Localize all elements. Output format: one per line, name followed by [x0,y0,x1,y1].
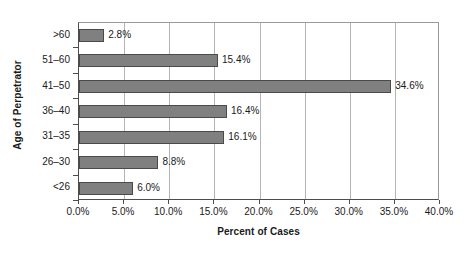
bar [79,105,227,118]
x-axis-tick [304,200,305,204]
x-axis-tick [213,200,214,204]
y-axis-tick-label: 26–30 [42,156,70,168]
bar-value-label: 34.6% [395,79,423,93]
y-axis-title: Age of Perpetrator [8,5,28,205]
x-axis-tick [439,200,440,204]
bar-value-label: 16.1% [228,130,256,144]
x-axis-tick-label: 40.0% [409,206,469,218]
bar-band: 16.4% [79,99,440,124]
y-axis-tick-label: <26 [53,181,70,193]
x-axis-tick [394,200,395,204]
y-axis-tick-label: 31–35 [42,130,70,142]
y-axis-tick [73,73,78,74]
bar-band: 6.0% [79,176,440,201]
y-axis-tick [73,47,78,48]
y-axis-tick-label: 36–40 [42,105,70,117]
x-axis-tick [168,200,169,204]
bar [79,156,158,169]
y-axis-tick-label: >60 [53,29,70,41]
bar-value-label: 8.8% [162,155,185,169]
bar [79,131,224,144]
y-axis-tick-label: 41–50 [42,80,70,92]
bar [79,80,391,93]
bar [79,182,133,195]
bar-band: 34.6% [79,74,440,99]
plot-area: 2.8%15.4%34.6%16.4%16.1%8.8%6.0% [78,22,439,200]
y-axis-tick [73,175,78,176]
bar-chart: Age of Perpetrator >6051–6041–5036–4031–… [0,0,474,254]
y-axis-tick [73,98,78,99]
bar-value-label: 16.4% [231,104,259,118]
bar-value-label: 15.4% [222,53,250,67]
bar-value-label: 6.0% [137,181,160,195]
bar [79,29,104,42]
x-axis-title: Percent of Cases [78,226,439,237]
bar-band: 15.4% [79,48,440,73]
bar-band: 8.8% [79,150,440,175]
bar [79,54,218,67]
x-axis-tick [123,200,124,204]
x-axis-tick [349,200,350,204]
y-axis-tick [73,149,78,150]
y-axis-tick-labels: >6051–6041–5036–4031–3526–30<26 [28,22,74,200]
y-axis-tick-label: 51–60 [42,54,70,66]
x-axis-tick [259,200,260,204]
bar-value-label: 2.8% [108,28,131,42]
y-axis-tick [73,124,78,125]
bar-band: 16.1% [79,125,440,150]
x-axis-tick [78,200,79,204]
bar-band: 2.8% [79,23,440,48]
